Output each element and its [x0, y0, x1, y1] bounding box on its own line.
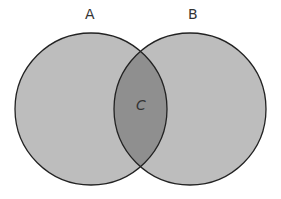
intersection-label: C	[136, 97, 146, 113]
set-b-label: B	[188, 6, 198, 22]
set-a-label: A	[85, 6, 95, 22]
